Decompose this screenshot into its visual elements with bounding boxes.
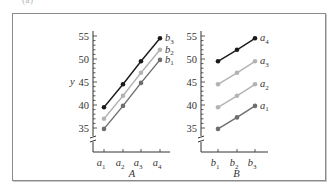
data-point xyxy=(139,71,144,76)
data-point xyxy=(158,36,163,41)
data-point xyxy=(102,105,107,110)
series-label-a1: a1 xyxy=(260,100,269,114)
data-point xyxy=(216,105,221,110)
data-point xyxy=(139,59,144,64)
data-point xyxy=(102,127,107,132)
data-point xyxy=(235,48,240,53)
series-label-a3: a3 xyxy=(260,55,269,69)
panel-b: 3540455055b1b2b3Ba4a3a2a1 xyxy=(187,31,270,180)
y-tick-label: 45 xyxy=(187,77,198,88)
series-label-a2: a2 xyxy=(260,78,269,92)
data-point xyxy=(253,36,258,41)
data-point xyxy=(102,117,107,122)
data-point xyxy=(121,104,126,109)
data-point xyxy=(121,94,126,99)
data-point xyxy=(216,82,221,87)
y-tick-label: 50 xyxy=(79,54,90,65)
series-line-b3 xyxy=(104,38,160,107)
x-tick-label: a2 xyxy=(116,157,125,171)
interaction-plots: 3540455055ya1a2a3a4Ab3b2b13540455055b1b2… xyxy=(0,0,330,188)
data-point xyxy=(216,59,221,64)
data-point xyxy=(253,82,258,87)
data-point xyxy=(235,94,240,99)
y-tick-label: 35 xyxy=(187,123,198,134)
data-point xyxy=(158,58,163,63)
data-point xyxy=(139,81,144,86)
y-axis-label: y xyxy=(69,76,75,87)
data-point xyxy=(235,71,240,76)
y-tick-label: 55 xyxy=(79,31,90,42)
x-tick-label: b1 xyxy=(211,157,220,171)
y-tick-label: 45 xyxy=(79,77,90,88)
x-tick-label: a1 xyxy=(97,157,106,171)
axis-break-icon xyxy=(198,136,204,142)
x-tick-label: b3 xyxy=(248,157,257,171)
y-tick-label: 40 xyxy=(187,100,198,111)
axis-break-icon xyxy=(90,136,96,142)
y-tick-label: 50 xyxy=(187,54,198,65)
y-tick-label: 35 xyxy=(79,123,90,134)
data-point xyxy=(235,115,240,120)
panel-a: 3540455055ya1a2a3a4Ab3b2b1 xyxy=(69,31,174,180)
x-tick-label: a4 xyxy=(153,157,162,171)
x-axis-label: B xyxy=(233,168,240,179)
data-point xyxy=(253,104,258,109)
data-point xyxy=(253,59,258,64)
x-axis-label: A xyxy=(128,168,136,179)
y-tick-label: 55 xyxy=(187,31,198,42)
series-line-b2 xyxy=(104,50,160,119)
series-label-a4: a4 xyxy=(260,32,269,46)
data-point xyxy=(121,82,126,87)
data-point xyxy=(216,127,221,132)
y-tick-label: 40 xyxy=(79,100,90,111)
data-point xyxy=(158,48,163,53)
series-line-b1 xyxy=(104,60,160,129)
